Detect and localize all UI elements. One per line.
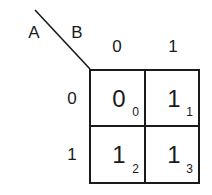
- karnaugh-map-grid: 0 0 1 1 1 2 1 3: [89, 69, 200, 184]
- cell-index: 1: [186, 106, 193, 118]
- kmap-cell-1: 1 1: [146, 71, 198, 127]
- row-header-1: 1: [67, 146, 76, 163]
- cell-index: 3: [186, 163, 193, 175]
- cell-index: 0: [132, 106, 139, 118]
- cell-value: 0: [112, 87, 125, 111]
- cell-value: 1: [167, 87, 180, 111]
- cell-index: 2: [132, 163, 139, 175]
- col-header-1: 1: [168, 38, 177, 55]
- kmap-cell-3: 1 3: [146, 127, 198, 182]
- kmap-cell-0: 0 0: [91, 71, 146, 127]
- kmap-cell-2: 1 2: [91, 127, 146, 182]
- col-variable-label: B: [71, 24, 82, 41]
- col-header-0: 0: [112, 38, 121, 55]
- row-header-0: 0: [67, 90, 76, 107]
- row-variable-label: A: [28, 24, 39, 41]
- cell-value: 1: [112, 143, 125, 167]
- cell-value: 1: [167, 143, 180, 167]
